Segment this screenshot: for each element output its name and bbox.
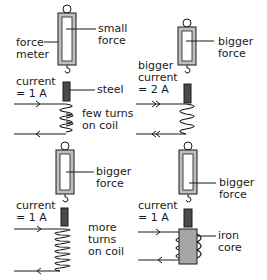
steel-label: steel (97, 84, 124, 96)
small-force-label: smallforce (98, 23, 127, 47)
current-label: current= 1 A (16, 200, 56, 224)
current-label: current= 1 A (138, 200, 178, 224)
bigger-force-label: biggerforce (218, 36, 253, 60)
force-meter-label: forcemeter (16, 37, 49, 61)
bigger-force-label: biggerforce (96, 166, 131, 190)
current-label: current= 1 A (16, 76, 56, 100)
panel-bigger-current: biggerforce biggercurrent= 2 A (134, 0, 267, 140)
panel-few-turns: forcemeter smallforce current= 1 A steel… (0, 0, 133, 140)
coil-label: few turnson coil (82, 108, 133, 132)
panel-more-turns: biggerforce current= 1 A moreturnson coi… (0, 140, 133, 280)
panel-iron-core: biggerforce current= 1 A ironcore (134, 140, 267, 280)
bigger-current-label: biggercurrent= 2 A (138, 60, 178, 96)
iron-core-label: ironcore (218, 230, 242, 254)
bigger-force-label: biggerforce (219, 177, 254, 201)
more-turns-label: moreturnson coil (88, 222, 124, 258)
